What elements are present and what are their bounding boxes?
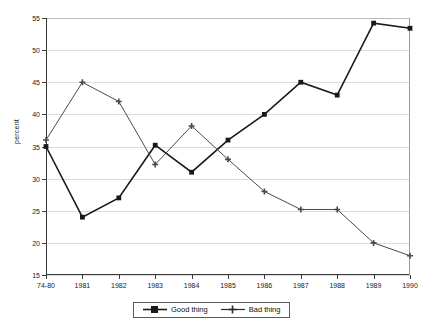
- series-container: [46, 18, 410, 275]
- data-point-square: [80, 215, 85, 220]
- x-tick-label: 1987: [293, 282, 309, 289]
- series-bad-thing: [43, 79, 413, 258]
- x-tick-mark: [374, 275, 375, 279]
- plus-marker-icon: [221, 305, 245, 314]
- x-tick-mark: [119, 275, 120, 279]
- data-point-plus: [407, 253, 413, 259]
- data-point-plus: [116, 99, 122, 105]
- x-tick-label: 1988: [329, 282, 345, 289]
- x-tick-label: 74-80: [37, 282, 55, 289]
- x-tick-mark: [410, 275, 411, 279]
- x-tick-mark: [228, 275, 229, 279]
- x-tick-label: 1984: [184, 282, 200, 289]
- chart-legend: Good thing Bad thing: [133, 302, 290, 318]
- x-tick-label: 1982: [111, 282, 127, 289]
- data-point-square: [371, 21, 376, 26]
- legend-label-good-thing: Good thing: [171, 305, 208, 314]
- x-tick-label: 1983: [147, 282, 163, 289]
- x-tick-mark: [264, 275, 265, 279]
- data-point-square: [408, 26, 413, 31]
- x-tick-label: 1985: [220, 282, 236, 289]
- x-tick-label: 1990: [402, 282, 418, 289]
- y-tick-label: 15: [32, 272, 40, 279]
- y-tick-label: 25: [32, 207, 40, 214]
- plot-area: 152025303540455055 74-801981198219831984…: [46, 18, 410, 275]
- series-line: [46, 82, 410, 255]
- data-point-square: [44, 144, 49, 149]
- x-tick-label: 1986: [257, 282, 273, 289]
- data-point-square: [153, 143, 158, 148]
- x-tick-mark: [82, 275, 83, 279]
- x-tick-label: 1989: [366, 282, 382, 289]
- x-tick-mark: [337, 275, 338, 279]
- data-point-square: [116, 196, 121, 201]
- y-tick-label: 35: [32, 143, 40, 150]
- y-tick-label: 45: [32, 79, 40, 86]
- y-tick-label: 30: [32, 175, 40, 182]
- x-tick-mark: [192, 275, 193, 279]
- data-point-plus: [43, 137, 49, 143]
- data-point-plus: [298, 206, 304, 212]
- y-axis-title: percent: [13, 102, 20, 162]
- y-tick-label: 55: [32, 15, 40, 22]
- y-tick-label: 50: [32, 47, 40, 54]
- x-tick-mark: [301, 275, 302, 279]
- legend-item-good-thing[interactable]: Good thing: [143, 305, 208, 314]
- data-point-square: [189, 170, 194, 175]
- line-chart: percent 152025303540455055 74-8019811982…: [0, 0, 425, 334]
- x-tick-mark: [155, 275, 156, 279]
- y-tick-label: 20: [32, 239, 40, 246]
- data-point-square: [226, 138, 231, 143]
- data-point-square: [335, 93, 340, 98]
- square-marker-icon: [143, 305, 167, 314]
- data-point-plus: [79, 79, 85, 85]
- x-tick-mark: [46, 275, 47, 279]
- series-line: [46, 23, 410, 217]
- series-good-thing: [44, 21, 413, 220]
- legend-label-bad-thing: Bad thing: [249, 305, 281, 314]
- legend-item-bad-thing[interactable]: Bad thing: [221, 305, 281, 314]
- x-tick-label: 1981: [75, 282, 91, 289]
- data-point-square: [262, 112, 267, 117]
- y-tick-label: 40: [32, 111, 40, 118]
- data-point-square: [298, 80, 303, 85]
